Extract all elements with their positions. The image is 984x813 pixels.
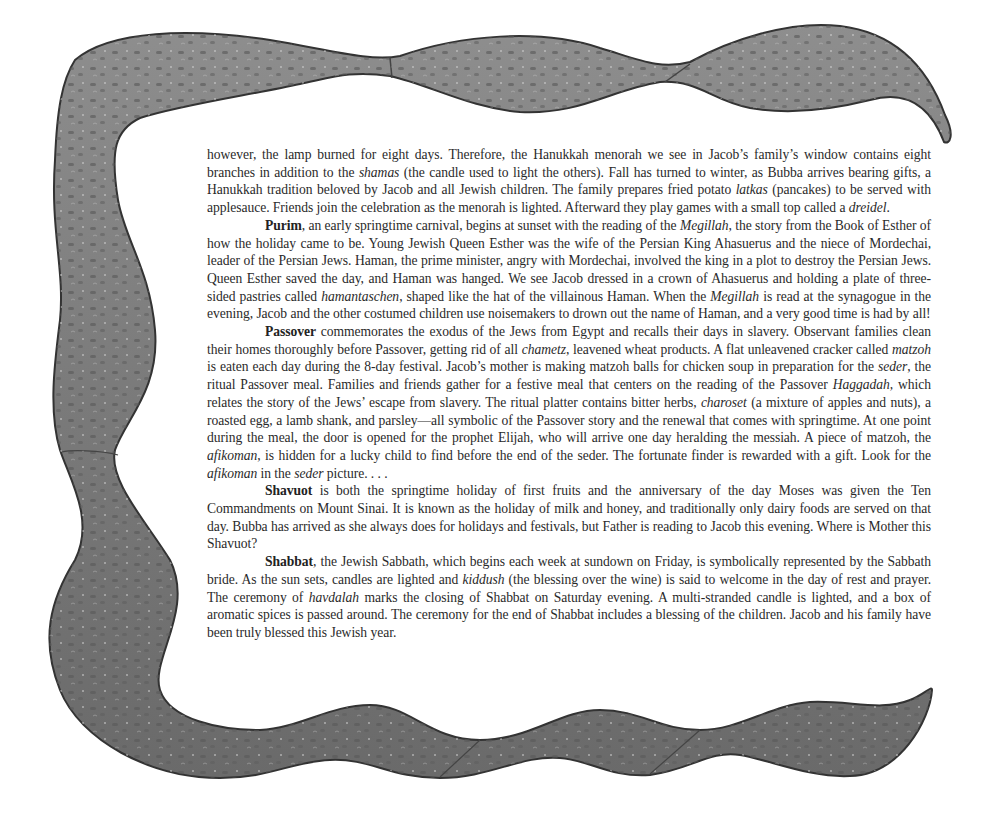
hebrew-term: latkas: [736, 182, 768, 197]
paragraph-shabbat: Shabbat, the Jewish Sabbath, which begin…: [207, 553, 931, 642]
hebrew-term: seder: [878, 359, 907, 374]
story-text: however, the lamp burned for eight days.…: [207, 146, 931, 642]
text-run: , shaped like the hat of the villainous …: [399, 289, 710, 304]
text-run: .: [886, 200, 889, 215]
hebrew-term: Megillah: [680, 218, 729, 233]
hebrew-term: dreidel: [849, 200, 887, 215]
hebrew-term: seder: [294, 466, 323, 481]
text-run: is eaten each day during the 8-day festi…: [207, 359, 878, 374]
holiday-name: Shabbat: [265, 554, 313, 569]
hebrew-term: Haggadah,: [833, 377, 893, 392]
hebrew-term: afikoman: [207, 448, 257, 463]
holiday-name: Passover: [265, 324, 316, 339]
paragraph-shavuot: Shavuot is both the springtime holiday o…: [207, 482, 931, 553]
text-run: in the: [257, 466, 294, 481]
hebrew-term: hamantaschen: [321, 289, 399, 304]
text-run: is both the springtime holiday of first …: [207, 483, 931, 551]
text-run: , leavened wheat products. A flat unleav…: [566, 342, 892, 357]
paragraph-purim: Purim, an early springtime carnival, beg…: [207, 217, 931, 323]
hebrew-term: shamas: [359, 165, 400, 180]
hebrew-term: kiddush: [462, 572, 504, 587]
hebrew-term: charoset: [701, 395, 747, 410]
hebrew-term: Megillah: [710, 289, 759, 304]
holiday-name: Purim: [265, 218, 302, 233]
hebrew-term: afikoman: [207, 466, 257, 481]
paragraph-passover: Passover commemorates the exodus of the …: [207, 323, 931, 482]
text-run: , an early springtime carnival, begins a…: [302, 218, 680, 233]
hebrew-term: chametz: [522, 342, 566, 357]
hebrew-term: matzoh: [892, 342, 931, 357]
paragraph-hanukkah: however, the lamp burned for eight days.…: [207, 146, 931, 217]
holiday-name: Shavuot: [265, 483, 312, 498]
hebrew-term: havdalah: [309, 590, 359, 605]
text-run: picture. . . .: [323, 466, 387, 481]
text-run: , is hidden for a lucky child to find be…: [257, 448, 931, 463]
